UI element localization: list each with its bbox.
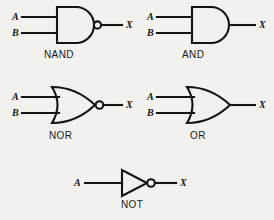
and-symbol — [137, 0, 274, 52]
and-body — [192, 7, 229, 43]
or-body — [187, 87, 230, 123]
not-inversion-bubble — [147, 179, 155, 187]
nor-gate-name: NOR — [49, 131, 72, 141]
nor-body — [52, 87, 95, 123]
nand-inversion-bubble — [94, 21, 101, 28]
nand-input-b-label: B — [12, 28, 19, 38]
nand-symbol — [0, 0, 137, 52]
or-gate-name: OR — [190, 131, 206, 141]
gate-not: A X NOT — [68, 165, 208, 201]
nand-gate-name: NAND — [44, 50, 74, 60]
gate-nand: A B X NAND — [0, 0, 137, 52]
gate-and: A B X AND — [137, 0, 274, 52]
and-gate-name: AND — [182, 50, 204, 60]
nor-input-b-label: B — [12, 108, 19, 118]
not-symbol — [68, 165, 208, 201]
and-input-b-label: B — [147, 28, 154, 38]
or-output-x-label: X — [259, 100, 266, 110]
and-output-x-label: X — [259, 20, 266, 30]
nand-body — [57, 7, 94, 43]
not-body — [122, 170, 147, 196]
or-input-b-label: B — [147, 108, 154, 118]
nor-inversion-bubble — [96, 101, 104, 109]
nor-output-x-label: X — [126, 100, 133, 110]
not-gate-name: NOT — [121, 200, 143, 210]
nand-output-x-label: X — [126, 20, 133, 30]
gate-nor: A B X NOR — [0, 80, 137, 132]
nor-symbol — [0, 80, 137, 132]
nor-input-a-label: A — [12, 92, 19, 102]
logic-gates-figure: A B X NAND A B X AND — [0, 0, 274, 220]
nand-input-a-label: A — [12, 12, 19, 22]
not-input-a-label: A — [74, 178, 81, 188]
gate-or: A B X OR — [137, 80, 274, 132]
or-input-a-label: A — [147, 92, 154, 102]
and-input-a-label: A — [147, 12, 154, 22]
or-symbol — [137, 80, 274, 132]
not-output-x-label: X — [180, 178, 187, 188]
